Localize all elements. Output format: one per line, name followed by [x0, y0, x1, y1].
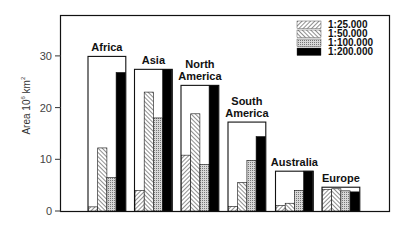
bar [341, 191, 350, 211]
category-label: Africa [91, 41, 123, 53]
legend-swatch [297, 48, 321, 56]
bar [153, 118, 162, 211]
bar [163, 69, 172, 211]
legend-swatch [297, 39, 321, 47]
bar [144, 92, 153, 211]
category-label: America [225, 107, 269, 119]
bar-group: Asia [135, 54, 173, 211]
y-axis-label: Area 106 km2 [20, 66, 31, 146]
bar-chart: 0102030 AfricaAsiaNorthAmericaSouthAmeri… [0, 0, 412, 227]
category-label: America [178, 70, 222, 82]
bar [107, 177, 116, 211]
category-label: Australia [271, 156, 319, 168]
bar [135, 190, 144, 211]
bar [191, 114, 200, 211]
y-axis: 0102030 [40, 50, 61, 217]
bar-group: Europe [322, 172, 360, 211]
legend-swatch [297, 21, 321, 29]
y-tick-label: 10 [40, 153, 52, 165]
legend: 1:25.0001:50.0001:100.0001:200.000 [297, 19, 373, 57]
bar [350, 192, 359, 211]
bar [276, 205, 285, 211]
bar [247, 160, 256, 211]
bar [200, 164, 209, 211]
bar [285, 203, 294, 211]
y-tick-label: 20 [40, 102, 52, 114]
bar [98, 148, 107, 211]
legend-swatch [297, 30, 321, 38]
y-tick-label: 0 [46, 205, 52, 217]
bar [238, 183, 247, 211]
bar [304, 171, 313, 211]
bars: AfricaAsiaNorthAmericaSouthAmericaAustra… [88, 41, 360, 211]
category-label: North [185, 58, 215, 70]
bar [182, 155, 191, 211]
bar-group: NorthAmerica [178, 58, 222, 211]
category-label: Asia [142, 54, 166, 66]
bar [323, 189, 332, 211]
bar [229, 206, 238, 211]
bar [89, 207, 98, 211]
y-tick-label: 30 [40, 50, 52, 62]
category-label: South [231, 95, 262, 107]
bar [116, 72, 125, 211]
bar-group: Australia [271, 156, 319, 211]
bar-group: SouthAmerica [225, 95, 269, 211]
bar [294, 190, 303, 211]
category-label: Europe [322, 172, 360, 184]
bar [209, 85, 218, 211]
bar-group: Africa [88, 41, 126, 211]
bar [332, 189, 341, 211]
bar [256, 137, 265, 211]
legend-label: 1:200.000 [328, 46, 373, 57]
